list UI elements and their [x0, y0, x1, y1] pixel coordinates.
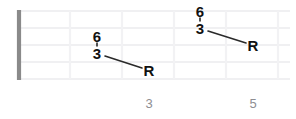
left-interval-shape: 6 3 R [93, 28, 155, 79]
fret-number-5: 5 [249, 96, 256, 111]
right-note-sixth: 6 [196, 3, 204, 20]
fret-number-3: 3 [145, 96, 152, 111]
fretboard-diagram-canvas: 6 3 R 6 3 R 3 5 [0, 0, 296, 119]
fret-numbers-group: 3 5 [145, 96, 256, 111]
right-note-root: R [248, 37, 259, 54]
fretboard-diagram: 6 3 R 6 3 R 3 5 [0, 0, 296, 119]
left-note-sixth: 6 [93, 28, 101, 45]
left-note-root: R [144, 62, 155, 79]
left-note-third: 3 [93, 45, 101, 62]
right-note-third: 3 [196, 20, 204, 37]
